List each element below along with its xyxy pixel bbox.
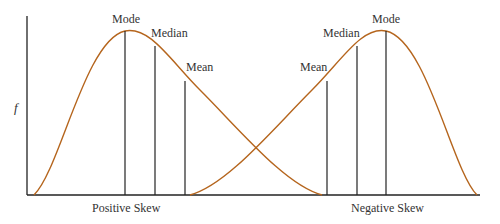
negative-median-label: Median [323, 26, 360, 40]
skewness-diagram: f Mode Median Mean Mean Median Mode Posi… [0, 0, 500, 224]
positive-mode-label: Mode [112, 12, 140, 26]
positive-median-label: Median [151, 26, 188, 40]
positive-skew-caption: Positive Skew [92, 201, 161, 215]
positive-skew-curve [34, 31, 322, 195]
negative-skew-caption: Negative Skew [351, 201, 424, 215]
negative-mode-label: Mode [372, 12, 400, 26]
y-axis-label: f [14, 100, 20, 115]
negative-mean-label: Mean [300, 60, 327, 74]
negative-skew-curve [190, 31, 477, 195]
positive-mean-label: Mean [186, 60, 213, 74]
